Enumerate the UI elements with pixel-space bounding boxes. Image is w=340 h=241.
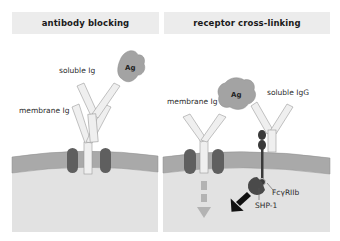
right-soluble-igg-icon (251, 102, 293, 152)
fc-receptor-label: FcγRIIb (272, 188, 300, 197)
left-soluble-ig-label: soluble Ig (59, 66, 95, 75)
right-ig-alpha-icon (184, 149, 196, 174)
left-membrane-ig-label: membrane Ig (19, 106, 70, 115)
left-antigen-label: Ag (125, 64, 135, 72)
right-antigen-label: Ag (231, 91, 241, 99)
left-ig-beta-icon (100, 148, 111, 173)
diagram-canvas: Ag soluble Ig membrane Ig Ag membrane Ig… (0, 0, 340, 241)
right-ig-beta-icon (212, 149, 224, 174)
right-soluble-igg-label: soluble IgG (267, 88, 309, 97)
left-ig-alpha-icon (67, 148, 78, 173)
right-membrane-ig-label: membrane Ig (167, 97, 218, 106)
shp1-label: SHP-1 (255, 201, 277, 210)
